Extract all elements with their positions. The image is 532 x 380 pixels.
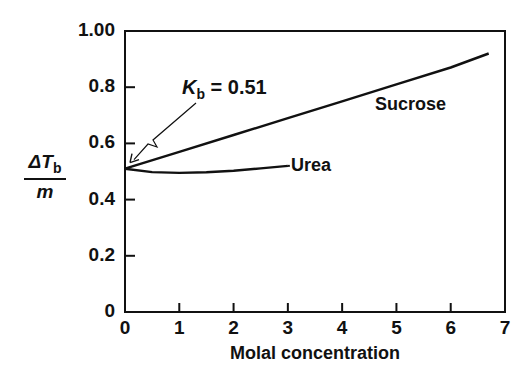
x-axis-label: Molal concentration	[125, 343, 505, 364]
x-tick-label: 7	[490, 317, 520, 339]
x-tick-label: 0	[110, 317, 140, 339]
y-tick-label: 0	[55, 300, 115, 322]
y-tick-label: 0.2	[55, 244, 115, 266]
y-axis-label-sub: b	[53, 160, 62, 176]
y-tick-label: 0.8	[55, 75, 115, 97]
kb-value: = 0.51	[205, 76, 267, 98]
x-tick-label: 2	[219, 317, 249, 339]
x-tick-label: 6	[436, 317, 466, 339]
kb-symbol: K	[182, 76, 196, 98]
kb-sub: b	[196, 86, 205, 102]
x-tick-label: 3	[273, 317, 303, 339]
series-label-urea: Urea	[291, 155, 331, 176]
x-tick-label: 4	[327, 317, 357, 339]
annotation-arrow	[130, 103, 196, 163]
series-line-urea	[125, 166, 288, 173]
kb-annotation: Kb = 0.51	[182, 76, 267, 102]
y-tick-label: 1.00	[55, 19, 115, 41]
x-tick-label: 5	[381, 317, 411, 339]
y-axis-label: ΔTb m	[24, 151, 66, 203]
x-tick-label: 1	[164, 317, 194, 339]
series-label-sucrose: Sucrose	[375, 94, 446, 115]
y-axis-label-symbol: ΔT	[29, 151, 53, 172]
y-axis-label-denominator: m	[24, 180, 66, 203]
